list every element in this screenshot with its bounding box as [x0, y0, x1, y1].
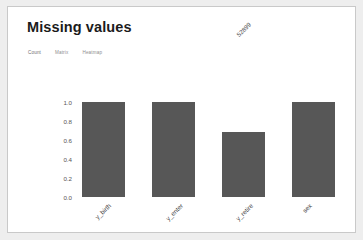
x-axis-tick: y_retire: [234, 202, 254, 222]
bar-slot: [82, 102, 125, 197]
bar-slot: [292, 102, 335, 197]
missing-values-bar-chart: 1.0 0.8 0.6 0.4 0.2 0.0 76982 76983 52: [8, 7, 356, 233]
bar-value-label: 76983: [305, 6, 322, 8]
bar-slot: [222, 102, 265, 197]
bar-slot: [152, 102, 195, 197]
bar-y-enter[interactable]: [152, 102, 195, 197]
bar-y-birth[interactable]: [82, 102, 125, 197]
bar-value-label: 52899: [235, 21, 252, 38]
x-axis-tick: y_birth: [93, 202, 112, 221]
bar-y-retire[interactable]: [222, 132, 265, 197]
x-axis-tick: y_enter: [164, 202, 184, 222]
bar-value-label: 76983: [165, 6, 182, 8]
x-axis-tick: sex: [301, 202, 313, 214]
bar-sex[interactable]: [292, 102, 335, 197]
bars-layer: [8, 102, 356, 197]
missing-values-card: Missing values Count Matrix Heatmap 1.0 …: [7, 6, 356, 233]
bar-value-label: 76982: [95, 6, 112, 8]
